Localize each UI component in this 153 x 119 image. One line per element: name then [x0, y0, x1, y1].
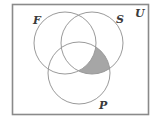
venn-diagram: F S P U — [0, 0, 153, 119]
universe-label: U — [135, 7, 146, 20]
set-s-label: S — [116, 13, 124, 26]
set-p-label: P — [98, 99, 108, 112]
set-f-label: F — [32, 14, 42, 27]
